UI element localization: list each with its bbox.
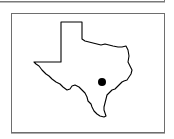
locator-map bbox=[0, 0, 174, 139]
location-marker bbox=[98, 78, 106, 86]
texas-outline bbox=[34, 22, 132, 117]
